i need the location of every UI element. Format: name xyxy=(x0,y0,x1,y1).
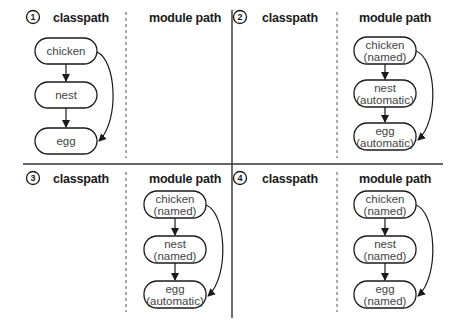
node-egg: egg xyxy=(35,128,97,154)
node-type: (named) xyxy=(364,51,407,63)
node-nest: nest xyxy=(35,82,97,108)
classpath-header: classpath xyxy=(262,11,318,25)
node-name: nest xyxy=(164,238,187,250)
classpath-header: classpath xyxy=(262,172,318,186)
node-egg: egg (named) xyxy=(354,281,416,308)
node-chicken: chicken (named) xyxy=(354,191,416,218)
panel-4: 4 classpath module path chicken (named) … xyxy=(234,172,433,313)
node-name: egg xyxy=(375,125,394,137)
module-path-header: module path xyxy=(359,172,431,186)
edge-chicken-egg xyxy=(416,205,433,296)
edge-chicken-egg xyxy=(416,51,433,140)
node-type: (automatic) xyxy=(146,295,204,307)
module-path-header: module path xyxy=(149,11,221,25)
node-type: (named) xyxy=(364,250,407,262)
node-chicken: chicken (named) xyxy=(354,37,416,64)
module-path-header: module path xyxy=(359,11,431,25)
node-type: (named) xyxy=(364,205,407,217)
classpath-header: classpath xyxy=(53,172,109,186)
edge-chicken-egg xyxy=(97,52,113,141)
node-name: nest xyxy=(374,82,397,94)
node-name: chicken xyxy=(47,45,86,57)
node-type: (named) xyxy=(154,205,197,217)
node-name: chicken xyxy=(156,193,195,205)
node-chicken: chicken (named) xyxy=(144,191,206,218)
panel-2: 2 classpath module path chicken (named) … xyxy=(234,11,433,159)
node-name: nest xyxy=(55,89,78,101)
node-name: chicken xyxy=(366,39,405,51)
node-type: (named) xyxy=(154,250,197,262)
panel-number: 3 xyxy=(30,173,35,183)
node-type: (automatic) xyxy=(356,94,414,106)
node-egg: egg (automatic) xyxy=(144,281,206,308)
panel-number: 2 xyxy=(237,12,242,22)
node-name: chicken xyxy=(366,193,405,205)
classpath-header: classpath xyxy=(53,11,109,25)
panel-number: 1 xyxy=(30,12,35,22)
node-chicken: chicken xyxy=(35,38,97,64)
node-egg: egg (automatic) xyxy=(354,123,416,150)
edge-chicken-egg xyxy=(206,205,223,296)
panel-1: 1 classpath module path chicken nest egg xyxy=(27,11,222,159)
panel-number: 4 xyxy=(237,173,242,183)
chicken-egg-module-diagram: 1 classpath module path chicken nest egg… xyxy=(0,0,462,330)
node-type: (automatic) xyxy=(356,137,414,149)
panel-3: 3 classpath module path chicken (named) … xyxy=(27,172,223,313)
module-path-header: module path xyxy=(149,172,221,186)
node-name: nest xyxy=(374,238,397,250)
node-name: egg xyxy=(56,135,75,147)
node-nest: nest (named) xyxy=(354,236,416,263)
node-nest: nest (automatic) xyxy=(354,80,416,107)
node-name: egg xyxy=(375,283,394,295)
node-type: (named) xyxy=(364,295,407,307)
node-nest: nest (named) xyxy=(144,236,206,263)
node-name: egg xyxy=(165,283,184,295)
